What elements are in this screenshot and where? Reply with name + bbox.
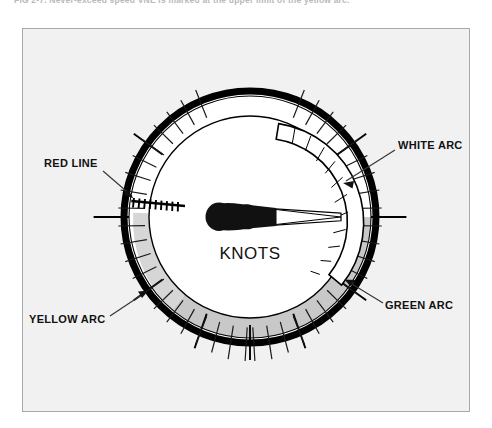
- callout-label-yellow-arc: YELLOW ARC: [29, 313, 106, 325]
- airspeed-indicator-drawing: KNOTS: [0, 0, 492, 428]
- callout-label-red-line: RED LINE: [44, 157, 98, 169]
- dial-unit-label: KNOTS: [219, 244, 280, 263]
- figure-root: FIG 2-7. Never-exceed speed VNE is marke…: [0, 0, 492, 428]
- callout-label-green-arc: GREEN ARC: [385, 299, 453, 311]
- callout-label-white-arc: WHITE ARC: [398, 139, 463, 151]
